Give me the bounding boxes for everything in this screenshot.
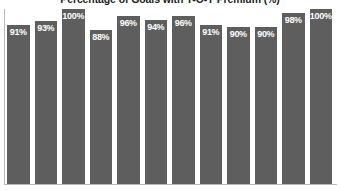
bar-value-label: 90% xyxy=(255,29,278,39)
bar-value-label: 100% xyxy=(62,11,85,21)
bar-value-label: 91% xyxy=(7,27,30,37)
bar-slot: 88% xyxy=(90,9,113,184)
bar-value-label: 94% xyxy=(145,22,168,32)
y-axis-line xyxy=(4,9,5,184)
bar-slot: 100% xyxy=(310,9,333,184)
bar[interactable]: 88% xyxy=(90,30,113,184)
bar[interactable]: 94% xyxy=(145,20,168,185)
bar-slot: 98% xyxy=(282,9,305,184)
plot-area: 91% 93% 100% 88% 96% xyxy=(0,0,340,191)
bar-value-label: 91% xyxy=(200,27,223,37)
bar[interactable]: 90% xyxy=(227,27,250,185)
bar[interactable]: 91% xyxy=(200,25,223,184)
bar[interactable]: 100% xyxy=(62,9,85,184)
bar-value-label: 98% xyxy=(282,15,305,25)
bar-chart: Percentage of Goals with Y-O-Y Premium (… xyxy=(0,0,340,191)
bar[interactable]: 96% xyxy=(172,16,195,184)
bar-value-label: 100% xyxy=(310,11,333,21)
x-axis-line xyxy=(4,184,337,185)
bar-value-label: 88% xyxy=(90,32,113,42)
bar-slot: 96% xyxy=(172,9,195,184)
bar[interactable]: 100% xyxy=(310,9,333,184)
bar-value-label: 93% xyxy=(35,23,58,33)
bar[interactable]: 91% xyxy=(7,25,30,184)
bar-slot: 93% xyxy=(35,9,58,184)
bar-slot: 100% xyxy=(62,9,85,184)
bar-slot: 90% xyxy=(255,9,278,184)
bar[interactable]: 98% xyxy=(282,13,305,185)
bar[interactable]: 90% xyxy=(255,27,278,185)
bar-value-label: 96% xyxy=(172,18,195,28)
bar-series: 91% 93% 100% 88% 96% xyxy=(7,9,337,184)
bar[interactable]: 96% xyxy=(117,16,140,184)
bar-slot: 94% xyxy=(145,9,168,184)
bar-slot: 96% xyxy=(117,9,140,184)
bar[interactable]: 93% xyxy=(35,21,58,184)
bar-value-label: 90% xyxy=(227,29,250,39)
bar-slot: 91% xyxy=(200,9,223,184)
bar-slot: 91% xyxy=(7,9,30,184)
bar-slot: 90% xyxy=(227,9,250,184)
bar-value-label: 96% xyxy=(117,18,140,28)
